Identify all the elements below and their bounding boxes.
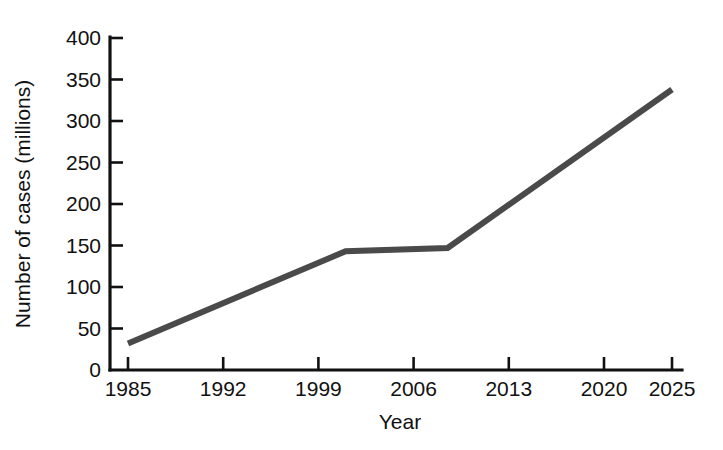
y-tick-label-400: 400	[66, 26, 101, 49]
x-tick-label-2006: 2006	[390, 377, 437, 400]
x-axis-tick-labels: 1985199219992006201320202025	[105, 377, 696, 400]
x-tick-label-2025: 2025	[649, 377, 696, 400]
y-tick-label-200: 200	[66, 192, 101, 215]
x-tick-label-1985: 1985	[105, 377, 152, 400]
x-tick-label-2020: 2020	[581, 377, 628, 400]
y-tick-label-50: 50	[78, 317, 101, 340]
y-tick-label-350: 350	[66, 68, 101, 91]
x-tick-label-2013: 2013	[485, 377, 532, 400]
chart-figure: 050100150200250300350400 198519921999200…	[0, 0, 723, 450]
y-axis-tick-labels: 050100150200250300350400	[66, 26, 101, 381]
y-tick-label-300: 300	[66, 109, 101, 132]
y-tick-label-0: 0	[89, 358, 101, 381]
y-tick-label-250: 250	[66, 151, 101, 174]
x-axis-ticks	[128, 357, 672, 370]
x-tick-label-1992: 1992	[200, 377, 247, 400]
y-axis-title: Number of cases (millions)	[11, 80, 34, 329]
y-axis-ticks	[110, 38, 123, 329]
y-tick-label-150: 150	[66, 234, 101, 257]
line-chart: 050100150200250300350400 198519921999200…	[0, 0, 723, 450]
data-series-line	[128, 89, 672, 343]
y-tick-label-100: 100	[66, 275, 101, 298]
x-axis-title: Year	[379, 410, 421, 433]
x-tick-label-1999: 1999	[295, 377, 342, 400]
